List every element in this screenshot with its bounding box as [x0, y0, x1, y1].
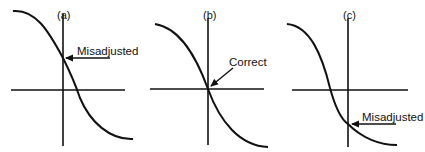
panel-c: Misadjusted (c)	[287, 9, 423, 147]
panel-a: Misadjusted (a)	[11, 9, 138, 146]
s-curve	[13, 11, 133, 139]
s-curve	[287, 24, 397, 145]
panel-label: (b)	[203, 9, 216, 21]
annotation-label: Misadjusted	[362, 111, 423, 123]
annotation-arrow	[211, 68, 233, 86]
panel-label: (c)	[343, 9, 356, 21]
panel-b: Correct (b)	[150, 9, 268, 147]
annotation-label: Misadjusted	[77, 45, 138, 57]
annotation-label: Correct	[229, 56, 268, 68]
figure-canvas: Misadjusted (a) Correct (b) Misadjusted …	[0, 0, 425, 152]
panel-label: (a)	[57, 9, 70, 21]
